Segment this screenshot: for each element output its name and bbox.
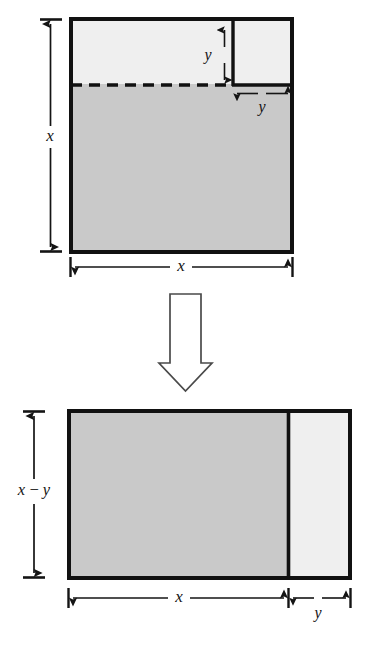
top-height-label: x (45, 126, 54, 145)
bottom-shaded-region (69, 411, 288, 578)
top-width-label: x (176, 256, 185, 275)
top-corner-square-fill (233, 19, 292, 84)
bottom-width-label-right: y (312, 604, 322, 622)
top-corner-width-label: y (256, 98, 266, 116)
bottom-width-label-left: x (174, 587, 183, 606)
top-corner-height-label: y (202, 46, 212, 64)
downward-transform-arrow (159, 294, 212, 391)
bottom-height-label: x − y (17, 480, 51, 499)
geometry-figure-root: x x y y x − y (0, 0, 373, 650)
figure-canvas: x x y y x − y (0, 0, 373, 650)
